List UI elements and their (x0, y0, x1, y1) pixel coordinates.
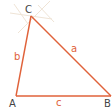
vertex-label-c: C (25, 4, 32, 15)
vertex-label-b: B (104, 98, 111, 109)
vertex-label-a: A (9, 98, 16, 109)
side-a (31, 16, 111, 96)
side-label-c: c (56, 97, 62, 108)
side-label-a: a (71, 43, 77, 54)
triangle-diagram: C A B b a c (0, 0, 112, 109)
side-label-b: b (14, 51, 20, 62)
